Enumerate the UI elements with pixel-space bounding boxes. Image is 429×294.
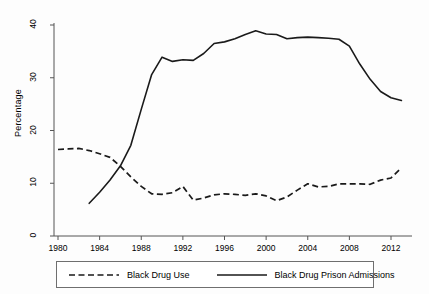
y-tick-label: 10 [28, 171, 38, 193]
legend-item-prison-admissions: Black Drug Prison Admissions [216, 262, 395, 287]
legend-label-drug-use: Black Drug Use [127, 270, 190, 280]
x-tick-label: 1992 [163, 243, 203, 253]
x-tick-label: 1996 [205, 243, 245, 253]
chart-legend: Black Drug Use Black Drug Prison Admissi… [56, 261, 374, 288]
chart-canvas [0, 0, 429, 255]
plot-area: Percentage 010203040 1980198419881992199… [0, 0, 429, 255]
y-tick-label: 30 [28, 66, 38, 88]
series-line-prison-admissions [89, 31, 401, 204]
y-axis-title: Percentage [13, 53, 23, 173]
x-tick-label: 1980 [38, 243, 78, 253]
legend-item-drug-use: Black Drug Use [68, 262, 190, 287]
series-line-drug-use [58, 148, 401, 200]
legend-solid-line-icon [216, 270, 268, 280]
y-tick-marks [50, 25, 54, 236]
legend-dashed-line-icon [68, 270, 120, 280]
y-tick-label: 20 [28, 119, 38, 141]
legend-label-prison-admissions: Black Drug Prison Admissions [275, 270, 395, 280]
x-tick-label: 2004 [288, 243, 328, 253]
x-tick-label: 2012 [371, 243, 411, 253]
chart-figure: Percentage 010203040 1980198419881992199… [0, 0, 429, 294]
x-tick-label: 2008 [329, 243, 369, 253]
y-tick-label: 0 [28, 224, 38, 246]
y-tick-label: 40 [28, 13, 38, 35]
x-tick-label: 2000 [246, 243, 286, 253]
x-tick-label: 1988 [121, 243, 161, 253]
x-tick-label: 1984 [80, 243, 120, 253]
x-tick-marks [58, 236, 391, 240]
